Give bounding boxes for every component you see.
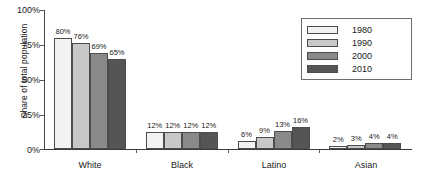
- bar-group-bars: 12%12%12%12%: [137, 10, 229, 149]
- y-tick-label: 75%: [4, 41, 40, 50]
- legend-item-2000[interactable]: 2000: [307, 49, 406, 62]
- category-label-asian: Asian: [320, 160, 412, 170]
- category-label-white: White: [44, 160, 136, 170]
- bar-white-1980[interactable]: [54, 38, 72, 149]
- bar-white-1990[interactable]: [72, 43, 90, 149]
- chart-legend: 1980199020002010: [301, 18, 412, 80]
- bar-group-bars: 80%76%69%65%: [45, 10, 137, 149]
- y-tick-label: 100%: [4, 6, 40, 15]
- y-tick-mark: [40, 10, 44, 11]
- legend-swatch-icon: [307, 26, 338, 34]
- bar-white-2010[interactable]: [108, 59, 126, 149]
- bar-black-2010[interactable]: [200, 132, 218, 149]
- category-label-latino: Latino: [228, 160, 320, 170]
- legend-item-2010[interactable]: 2010: [307, 62, 406, 75]
- bar-slot: 12%: [200, 10, 218, 149]
- legend-item-1990[interactable]: 1990: [307, 36, 406, 49]
- bar-slot: 65%: [108, 10, 126, 149]
- bar-latino-1980[interactable]: [238, 141, 256, 149]
- y-tick-mark: [40, 115, 44, 116]
- bar-value-label: 16%: [286, 117, 316, 125]
- bar-black-1990[interactable]: [164, 132, 182, 149]
- y-tick-mark: [40, 80, 44, 81]
- bar-group-black: 12%12%12%12%: [137, 10, 229, 149]
- legend-swatch-icon: [307, 39, 338, 47]
- bar-slot: 80%: [54, 10, 72, 149]
- bar-chart: Share of total population 100% 75% 50% 2…: [0, 0, 425, 183]
- bar-latino-2010[interactable]: [292, 127, 310, 149]
- legend-swatch-icon: [307, 52, 338, 60]
- x-axis-line: [44, 149, 412, 150]
- bar-slot: 13%: [274, 10, 292, 149]
- bar-slot: 76%: [72, 10, 90, 149]
- x-axis-category-labels: White Black Latino Asian: [44, 160, 412, 170]
- y-axis-tick-labels: 100% 75% 50% 25% 0%: [0, 0, 40, 183]
- bar-black-2000[interactable]: [182, 132, 200, 149]
- legend-item-label: 1980: [352, 25, 372, 35]
- bar-black-1980[interactable]: [146, 132, 164, 149]
- bar-value-label: 65%: [102, 49, 132, 57]
- legend-item-label: 2000: [352, 51, 372, 61]
- legend-swatch-icon: [307, 65, 338, 73]
- category-label-black: Black: [136, 160, 228, 170]
- legend-item-1980[interactable]: 1980: [307, 23, 406, 36]
- bar-value-label: 4%: [377, 133, 407, 141]
- bar-latino-1990[interactable]: [256, 137, 274, 150]
- bar-slot: 69%: [90, 10, 108, 149]
- y-tick-label: 0%: [4, 146, 40, 155]
- y-tick-label: 50%: [4, 76, 40, 85]
- bar-latino-2000[interactable]: [274, 131, 292, 149]
- y-tick-mark: [40, 45, 44, 46]
- legend-item-label: 2010: [352, 64, 372, 74]
- y-tick-label: 25%: [4, 111, 40, 120]
- bar-value-label: 12%: [194, 122, 224, 130]
- bar-group-white: 80%76%69%65%: [45, 10, 137, 149]
- bar-white-2000[interactable]: [90, 53, 108, 149]
- legend-item-label: 1990: [352, 38, 372, 48]
